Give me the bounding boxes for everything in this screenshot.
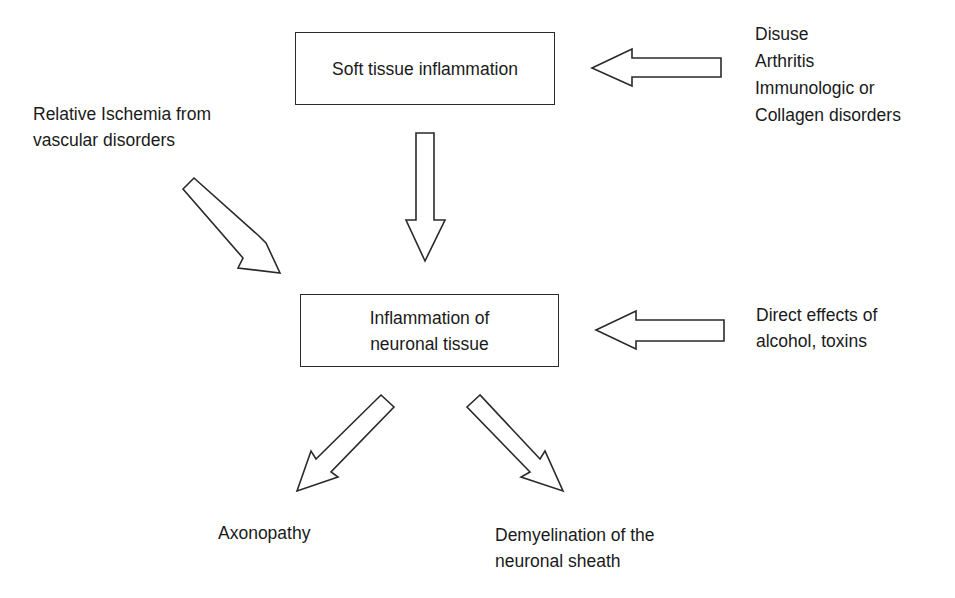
soft-tissue-inflammation-label: Soft tissue inflammation [332, 56, 518, 82]
soft-tissue-inflammation-box: Soft tissue inflammation [295, 32, 555, 105]
arrow-down-right-icon [183, 178, 280, 273]
ischemia-line-1: Relative Ischemia from [33, 101, 211, 127]
direct-effects-line-1: Direct effects of [756, 302, 877, 328]
systemic-causes-label: Disuse Arthritis Immunologic or Collagen… [755, 21, 901, 129]
neuronal-inflammation-label: Inflammation of neuronal tissue [370, 305, 490, 357]
direct-effects-line-2: alcohol, toxins [756, 328, 877, 354]
demyelination-line-2: neuronal sheath [495, 548, 655, 574]
ischemia-line-2: vascular disorders [33, 127, 211, 153]
cause-disuse: Disuse [755, 21, 901, 48]
demyelination-label: Demyelination of the neuronal sheath [495, 522, 655, 574]
arrow-left-icon [592, 49, 721, 86]
axonopathy-line-1: Axonopathy [218, 520, 310, 546]
direct-effects-label: Direct effects of alcohol, toxins [756, 302, 877, 354]
cause-arthritis: Arthritis [755, 48, 901, 75]
arrow-down-right-icon [467, 395, 563, 491]
neuronal-inflammation-line-2: neuronal tissue [370, 331, 490, 357]
cause-immunologic: Immunologic or [755, 75, 901, 102]
neuronal-inflammation-line-1: Inflammation of [370, 305, 490, 331]
ischemia-label: Relative Ischemia from vascular disorder… [33, 101, 211, 153]
cause-collagen: Collagen disorders [755, 102, 901, 129]
demyelination-line-1: Demyelination of the [495, 522, 655, 548]
arrow-down-left-icon [297, 395, 394, 491]
arrow-down-icon [406, 133, 445, 261]
arrow-left-icon [596, 311, 724, 349]
axonopathy-label: Axonopathy [218, 520, 310, 546]
flow-diagram: Soft tissue inflammation Inflammation of… [0, 0, 955, 598]
neuronal-inflammation-box: Inflammation of neuronal tissue [300, 294, 559, 367]
